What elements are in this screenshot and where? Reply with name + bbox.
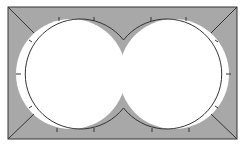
geometry-diagram xyxy=(0,0,245,145)
shaded-region xyxy=(8,7,237,139)
